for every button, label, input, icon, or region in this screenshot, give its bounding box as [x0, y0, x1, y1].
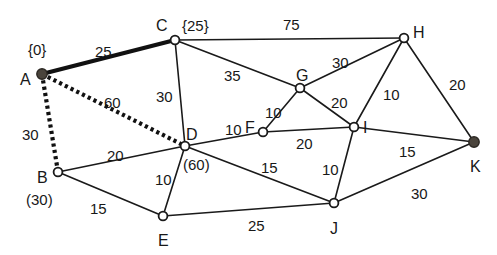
- node-label-g: G: [296, 68, 308, 84]
- edge-weight-h-k: 20: [449, 77, 466, 92]
- edge-g-h: [300, 38, 404, 88]
- edge-weight-g-i: 20: [331, 95, 348, 110]
- node-c[interactable]: [171, 36, 180, 45]
- edge-weight-b-e: 15: [90, 201, 107, 216]
- edge-layer: [42, 38, 474, 216]
- node-label-j: J: [330, 221, 338, 237]
- node-label-i: I: [363, 120, 367, 136]
- node-tag-d: (60): [183, 157, 210, 172]
- node-j[interactable]: [330, 199, 339, 208]
- node-label-c: C: [156, 18, 168, 34]
- edge-weight-c-d: 30: [156, 89, 173, 104]
- edge-c-d: [175, 40, 185, 146]
- edge-a-b: [42, 74, 58, 172]
- edge-weight-a-b: 30: [22, 127, 39, 142]
- node-tag-c: {25}: [182, 18, 209, 33]
- node-label-b: B: [37, 170, 48, 186]
- edge-weight-i-k: 15: [399, 144, 416, 159]
- node-tag-a: {0}: [28, 42, 46, 57]
- node-label-e: E: [158, 233, 169, 249]
- edge-c-h: [175, 38, 404, 40]
- node-h[interactable]: [400, 34, 409, 43]
- edge-i-k: [354, 127, 474, 142]
- edge-h-i: [354, 38, 404, 127]
- node-g[interactable]: [296, 84, 305, 93]
- edge-e-j: [163, 203, 334, 216]
- node-label-h: H: [413, 25, 425, 41]
- node-label-k: K: [470, 159, 481, 175]
- node-label-a: A: [20, 72, 31, 88]
- node-a[interactable]: [37, 69, 47, 79]
- node-i[interactable]: [350, 123, 359, 132]
- edge-weight-b-d: 20: [107, 148, 124, 163]
- node-f[interactable]: [259, 128, 268, 137]
- edge-weight-a-c: 25: [95, 44, 112, 59]
- edge-weight-j-k: 30: [411, 186, 428, 201]
- edge-weight-a-d: 60: [104, 95, 121, 110]
- node-b[interactable]: [54, 168, 63, 177]
- edge-weight-d-j: 15: [261, 160, 278, 175]
- node-label-f: F: [245, 120, 255, 136]
- edge-weight-g-h: 30: [332, 55, 349, 70]
- edge-weight-c-h: 75: [283, 17, 300, 32]
- edge-weight-h-i: 10: [383, 87, 400, 102]
- edge-weight-f-g: 10: [265, 105, 282, 120]
- edge-weight-d-f: 10: [225, 122, 242, 137]
- edge-b-e: [58, 172, 163, 216]
- node-tag-b: (30): [26, 192, 53, 207]
- edge-weight-f-i: 20: [296, 136, 313, 151]
- edge-f-i: [263, 127, 354, 132]
- node-e[interactable]: [159, 212, 168, 221]
- edge-weight-i-j: 10: [322, 162, 339, 177]
- edge-weight-d-e: 10: [155, 172, 172, 187]
- node-k[interactable]: [469, 137, 479, 147]
- edge-weight-c-g: 35: [224, 68, 241, 83]
- edge-weight-e-j: 25: [248, 218, 265, 233]
- edge-d-j: [185, 146, 334, 203]
- node-label-d: D: [186, 127, 198, 143]
- graph-diagram: 2530607530352015101015251020302010201015…: [0, 0, 497, 255]
